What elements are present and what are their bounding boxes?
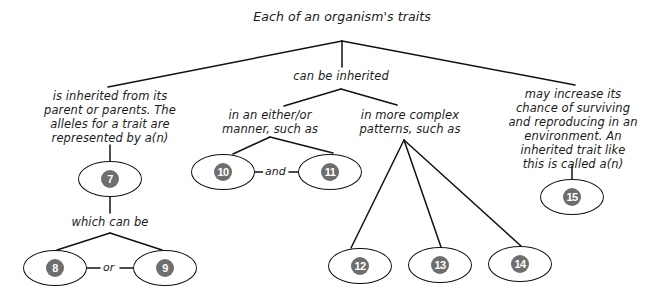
text-line: in more complex [350, 108, 470, 122]
text-line: which can be [71, 215, 148, 229]
text-line: alleles for a trait are [20, 117, 200, 131]
number-badge: 13 [431, 256, 449, 274]
text-line: and [265, 165, 286, 178]
text-line: is inherited from its [20, 89, 200, 103]
text-line: patterns, such as [350, 122, 470, 136]
answer-node-15[interactable]: 15 [540, 179, 604, 215]
number-badge: 8 [46, 259, 64, 277]
answer-node-13[interactable]: 13 [408, 247, 472, 283]
number-badge: 7 [101, 170, 119, 188]
either-or-label: in an either/or manner, such as [210, 108, 330, 136]
number-badge: 14 [511, 255, 529, 273]
answer-node-8[interactable]: 8 [23, 250, 87, 286]
and-connector-label: and [263, 166, 288, 178]
inherited-from-parents-label: is inherited from its parent or parents.… [20, 89, 200, 145]
adaptation-label: may increase its chance of surviving and… [502, 87, 644, 171]
answer-node-10[interactable]: 10 [191, 154, 255, 190]
answer-node-7[interactable]: 7 [78, 161, 142, 197]
root-text: Each of an organism's traits [253, 9, 431, 24]
text-line: environment. An [502, 129, 644, 143]
or-connector-label: or [101, 262, 116, 274]
complex-patterns-label: in more complex patterns, such as [350, 108, 470, 136]
answer-node-12[interactable]: 12 [328, 248, 392, 284]
can-be-inherited-label: can be inherited [281, 69, 401, 83]
number-badge: 10 [214, 163, 232, 181]
concept-map: Each of an organism's traits is inherite… [0, 0, 653, 302]
root-label: Each of an organism's traits [242, 10, 442, 24]
text-line: and reproducing in an [502, 115, 644, 129]
text-line: can be inherited [293, 69, 389, 83]
which-can-be-label: which can be [60, 215, 160, 229]
text-line: inherited trait like [502, 143, 644, 157]
number-badge: 15 [563, 188, 581, 206]
text-line: may increase its [502, 87, 644, 101]
text-line: manner, such as [210, 122, 330, 136]
text-line: chance of surviving [502, 101, 644, 115]
answer-node-11[interactable]: 11 [298, 154, 362, 190]
text-line: or [103, 261, 114, 274]
text-line: this is called a(n) [502, 157, 644, 171]
text-line: in an either/or [210, 108, 330, 122]
text-line: represented by a(n) [20, 131, 200, 145]
number-badge: 9 [156, 259, 174, 277]
answer-node-9[interactable]: 9 [133, 250, 197, 286]
answer-node-14[interactable]: 14 [488, 246, 552, 282]
text-line: parent or parents. The [20, 103, 200, 117]
number-badge: 11 [321, 163, 339, 181]
number-badge: 12 [351, 257, 369, 275]
